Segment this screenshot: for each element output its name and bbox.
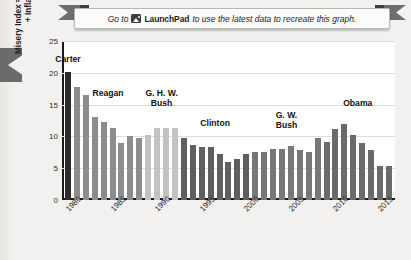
bar: [234, 159, 240, 200]
launchpad-image-icon: [131, 14, 141, 23]
bar: [118, 143, 124, 200]
y-tick-label: 5: [54, 164, 58, 173]
bar: [163, 128, 169, 201]
bar: [83, 95, 89, 200]
bar: [270, 149, 276, 200]
bar: [252, 152, 258, 200]
bar: [315, 138, 321, 200]
y-tick-label: 20: [49, 68, 58, 77]
bar: [199, 147, 205, 200]
bar: [368, 150, 374, 200]
y-tick-label: 0: [54, 196, 58, 205]
bar: [154, 128, 160, 201]
era-label: G. H. W.Bush: [122, 89, 202, 108]
bar: [324, 142, 330, 201]
bar: [136, 138, 142, 200]
bar: [332, 129, 338, 200]
bar: [110, 128, 116, 200]
y-axis-title: Misery Index = Unemployment Rate + Infla…: [14, 0, 32, 55]
bar: [208, 147, 214, 200]
era-label: Carter: [28, 55, 108, 65]
bar: [101, 122, 107, 200]
bar: [359, 143, 365, 200]
banner-suffix-text: to use the latest data to recreate this …: [192, 14, 356, 24]
bar: [181, 138, 187, 200]
bar: [127, 136, 133, 200]
y-axis-ticks: 0510152025: [40, 41, 58, 200]
launchpad-brand-label[interactable]: LaunchPad: [144, 14, 189, 24]
bar: [217, 154, 223, 200]
launchpad-banner-body: Go to LaunchPad to use the latest data t…: [74, 8, 390, 29]
bar: [377, 166, 383, 200]
launchpad-banner: Go to LaunchPad to use the latest data t…: [58, 3, 406, 28]
bar: [172, 128, 178, 200]
y-tick-label: 15: [49, 100, 58, 109]
era-label: G. W.Bush: [246, 111, 326, 130]
bar: [74, 87, 80, 200]
bar: [341, 124, 347, 200]
bar: [261, 152, 267, 200]
bar: [306, 152, 312, 200]
bar: [92, 117, 98, 200]
bar: [279, 149, 285, 200]
era-label: Clinton: [175, 119, 255, 129]
x-axis-ticks: 19801985199019952000200520102015: [62, 203, 395, 243]
y-tick-label: 10: [49, 132, 58, 141]
y-tick-label: 25: [49, 37, 58, 46]
era-label: Obama: [318, 99, 398, 109]
bar: [190, 145, 196, 200]
bar: [288, 146, 294, 200]
bar: [243, 154, 249, 200]
bar: [350, 135, 356, 200]
banner-prefix-text: Go to: [108, 14, 129, 24]
bar: [297, 150, 303, 200]
bar: [145, 135, 151, 200]
bar: [225, 162, 231, 200]
chart-plot-area: CarterReaganG. H. W.BushClintonG. W.Bush…: [62, 41, 395, 200]
